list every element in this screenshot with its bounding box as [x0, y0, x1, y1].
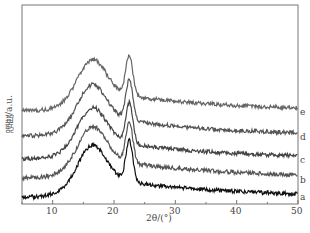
curve-label-b: b	[300, 175, 306, 185]
curve-label-d: d	[300, 132, 306, 142]
x-tick: 50	[291, 206, 302, 216]
x-tick: 30	[169, 206, 180, 216]
x-tick: 40	[230, 206, 241, 216]
curve-label-e: e	[300, 107, 305, 117]
x-axis-label: 2θ/(°)	[146, 213, 172, 223]
x-tick: 10	[46, 206, 57, 216]
plot-area	[0, 0, 310, 233]
curve-b	[22, 122, 297, 180]
y-axis-label: 强度/a.u.	[2, 95, 16, 133]
xrd-chart: 强度/a.u. 2θ/(°) 10 20 30 40 50 a b c d e	[0, 0, 310, 233]
curve-e	[22, 55, 297, 112]
curve-c	[22, 101, 297, 161]
curve-label-a: a	[300, 192, 305, 202]
curve-label-c: c	[300, 155, 305, 165]
curve-d	[22, 79, 297, 137]
x-tick: 20	[107, 206, 118, 216]
